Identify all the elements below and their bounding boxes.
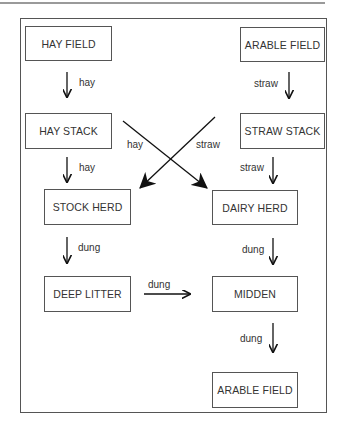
- edge-strawstack-stockherd: [140, 117, 215, 188]
- node-hay-field: HAY FIELD: [25, 26, 112, 61]
- edge-label-hay-2: hay: [79, 162, 95, 173]
- edge-label-straw-cross: straw: [196, 139, 220, 150]
- node-arable-field-top: ARABLE FIELD: [240, 27, 325, 62]
- node-midden: MIDDEN: [212, 276, 298, 312]
- edge-label-dung-4: dung: [240, 333, 262, 344]
- node-dairy-herd: DAIRY HERD: [212, 190, 298, 225]
- node-hay-stack: HAY STACK: [25, 113, 112, 149]
- edge-haystack-dairyherd: [123, 121, 207, 188]
- node-stock-herd: STOCK HERD: [44, 189, 131, 225]
- edge-label-dung-3: dung: [148, 279, 170, 290]
- edge-label-straw-1: straw: [254, 78, 278, 89]
- edge-label-hay-1: hay: [79, 77, 95, 88]
- node-straw-stack: STRAW STACK: [240, 113, 325, 149]
- edge-label-hay-cross: hay: [127, 139, 143, 150]
- node-arable-field-bottom: ARABLE FIELD: [212, 372, 298, 408]
- node-deep-litter: DEEP LITTER: [44, 276, 131, 312]
- edge-label-dung-1: dung: [78, 242, 100, 253]
- edge-label-dung-2: dung: [242, 244, 264, 255]
- edge-label-straw-2: straw: [240, 162, 264, 173]
